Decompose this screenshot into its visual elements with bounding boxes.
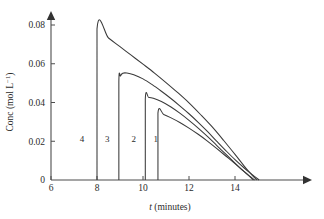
y-tick-label: 0.08 xyxy=(28,20,45,30)
y-axis-title: Conc (mol L−1) xyxy=(4,73,16,132)
y-axis-arrow-icon xyxy=(47,11,55,20)
x-axis-ticks xyxy=(51,176,235,180)
x-tick-label: 8 xyxy=(95,183,100,193)
curve-3 xyxy=(119,73,259,180)
y-tick-label: 0.02 xyxy=(28,137,45,147)
y-tick-label: 0.06 xyxy=(28,59,45,69)
concentration-vs-time-chart: 68101214 00.020.040.060.08 4321 t (minut… xyxy=(0,0,324,219)
y-axis-ticks xyxy=(51,25,55,141)
curve-label-2: 2 xyxy=(132,134,137,144)
x-axis-title: t (minutes) xyxy=(149,202,190,213)
y-tick-label: 0.04 xyxy=(28,98,45,108)
x-tick-label: 14 xyxy=(230,183,240,193)
x-tick-label: 12 xyxy=(184,183,194,193)
x-axis-tick-labels: 68101214 xyxy=(49,183,240,193)
x-tick-label: 10 xyxy=(138,183,148,193)
y-axis-tick-labels: 00.020.040.060.08 xyxy=(28,20,45,185)
curve-label-3: 3 xyxy=(105,134,110,144)
curve-label-1: 1 xyxy=(153,134,158,144)
curve-label-4: 4 xyxy=(80,134,85,144)
curve-4 xyxy=(97,20,257,180)
y-tick-label: 0 xyxy=(40,175,45,185)
chart-figure: 68101214 00.020.040.060.08 4321 t (minut… xyxy=(0,0,324,219)
x-tick-label: 6 xyxy=(49,183,54,193)
data-curves xyxy=(97,20,259,180)
axes-group xyxy=(47,11,312,184)
x-axis-arrow-icon xyxy=(303,176,312,184)
